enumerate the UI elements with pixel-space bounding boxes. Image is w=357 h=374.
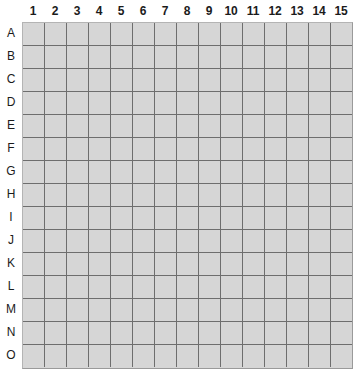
grid-cell-H6[interactable] (133, 184, 155, 207)
grid-cell-G9[interactable] (199, 161, 221, 184)
grid-cell-H13[interactable] (287, 184, 309, 207)
grid-cell-C7[interactable] (155, 69, 177, 92)
grid-cell-F7[interactable] (155, 138, 177, 161)
grid-cell-G5[interactable] (111, 161, 133, 184)
grid-cell-K2[interactable] (45, 253, 67, 276)
grid-cell-A8[interactable] (177, 23, 199, 46)
grid-cell-H2[interactable] (45, 184, 67, 207)
grid-cell-G6[interactable] (133, 161, 155, 184)
grid-cell-A12[interactable] (265, 23, 287, 46)
grid-cell-N11[interactable] (243, 322, 265, 345)
grid-cell-A13[interactable] (287, 23, 309, 46)
grid-cell-M4[interactable] (89, 299, 111, 322)
grid-cell-I14[interactable] (309, 207, 331, 230)
grid-cell-D7[interactable] (155, 92, 177, 115)
grid-cell-G14[interactable] (309, 161, 331, 184)
grid-cell-J2[interactable] (45, 230, 67, 253)
grid-cell-N8[interactable] (177, 322, 199, 345)
grid-cell-C15[interactable] (331, 69, 352, 92)
grid-cell-M8[interactable] (177, 299, 199, 322)
grid-cell-I2[interactable] (45, 207, 67, 230)
grid-cell-M5[interactable] (111, 299, 133, 322)
grid-cell-N14[interactable] (309, 322, 331, 345)
grid-cell-G7[interactable] (155, 161, 177, 184)
grid-cell-I4[interactable] (89, 207, 111, 230)
grid-cell-H8[interactable] (177, 184, 199, 207)
grid-cell-L8[interactable] (177, 276, 199, 299)
grid-cell-F8[interactable] (177, 138, 199, 161)
grid-cell-G15[interactable] (331, 161, 352, 184)
grid-cell-B10[interactable] (221, 46, 243, 69)
grid-cell-G13[interactable] (287, 161, 309, 184)
grid-cell-F4[interactable] (89, 138, 111, 161)
grid-cell-K4[interactable] (89, 253, 111, 276)
grid-cell-M1[interactable] (23, 299, 45, 322)
grid-cell-I6[interactable] (133, 207, 155, 230)
grid-cell-C14[interactable] (309, 69, 331, 92)
grid-cell-J4[interactable] (89, 230, 111, 253)
grid-cell-O9[interactable] (199, 345, 221, 367)
grid-cell-J6[interactable] (133, 230, 155, 253)
grid-cell-F15[interactable] (331, 138, 352, 161)
grid-cell-E9[interactable] (199, 115, 221, 138)
grid-cell-B14[interactable] (309, 46, 331, 69)
grid-cell-F14[interactable] (309, 138, 331, 161)
grid-cell-B8[interactable] (177, 46, 199, 69)
grid-cell-H4[interactable] (89, 184, 111, 207)
grid-cell-D12[interactable] (265, 92, 287, 115)
grid-cell-I11[interactable] (243, 207, 265, 230)
grid-cell-O8[interactable] (177, 345, 199, 367)
grid-cell-G3[interactable] (67, 161, 89, 184)
grid-cell-O11[interactable] (243, 345, 265, 367)
grid-cell-F11[interactable] (243, 138, 265, 161)
grid-cell-D2[interactable] (45, 92, 67, 115)
grid-cell-I1[interactable] (23, 207, 45, 230)
grid-cell-B9[interactable] (199, 46, 221, 69)
grid-cell-A4[interactable] (89, 23, 111, 46)
grid-cell-N7[interactable] (155, 322, 177, 345)
grid-cell-C9[interactable] (199, 69, 221, 92)
grid-cell-O1[interactable] (23, 345, 45, 367)
grid-cell-N12[interactable] (265, 322, 287, 345)
grid-cell-D8[interactable] (177, 92, 199, 115)
grid-cell-F5[interactable] (111, 138, 133, 161)
grid-cell-L12[interactable] (265, 276, 287, 299)
grid-cell-A15[interactable] (331, 23, 352, 46)
grid-cell-H10[interactable] (221, 184, 243, 207)
grid-cell-D3[interactable] (67, 92, 89, 115)
grid-cell-K7[interactable] (155, 253, 177, 276)
grid-cell-D11[interactable] (243, 92, 265, 115)
grid-cell-B1[interactable] (23, 46, 45, 69)
grid-cell-C12[interactable] (265, 69, 287, 92)
grid-cell-N4[interactable] (89, 322, 111, 345)
grid-cell-F3[interactable] (67, 138, 89, 161)
grid-cell-K13[interactable] (287, 253, 309, 276)
grid-cell-K9[interactable] (199, 253, 221, 276)
grid-cell-N9[interactable] (199, 322, 221, 345)
grid-cell-A2[interactable] (45, 23, 67, 46)
grid-cell-K15[interactable] (331, 253, 352, 276)
grid-cell-J5[interactable] (111, 230, 133, 253)
grid-cell-N5[interactable] (111, 322, 133, 345)
grid-cell-E12[interactable] (265, 115, 287, 138)
grid-cell-L1[interactable] (23, 276, 45, 299)
grid-cell-B2[interactable] (45, 46, 67, 69)
grid-cell-H11[interactable] (243, 184, 265, 207)
grid-cell-C3[interactable] (67, 69, 89, 92)
grid-cell-N3[interactable] (67, 322, 89, 345)
grid-cell-M9[interactable] (199, 299, 221, 322)
grid-cell-E2[interactable] (45, 115, 67, 138)
grid-cell-M15[interactable] (331, 299, 352, 322)
grid-cell-G12[interactable] (265, 161, 287, 184)
grid-cell-F13[interactable] (287, 138, 309, 161)
grid-cell-G2[interactable] (45, 161, 67, 184)
grid-cell-O7[interactable] (155, 345, 177, 367)
grid-cell-I10[interactable] (221, 207, 243, 230)
grid-cell-L15[interactable] (331, 276, 352, 299)
grid-cell-O14[interactable] (309, 345, 331, 367)
grid-cell-I9[interactable] (199, 207, 221, 230)
grid-cell-K5[interactable] (111, 253, 133, 276)
grid-cell-K3[interactable] (67, 253, 89, 276)
grid-cell-H9[interactable] (199, 184, 221, 207)
grid-cell-B7[interactable] (155, 46, 177, 69)
